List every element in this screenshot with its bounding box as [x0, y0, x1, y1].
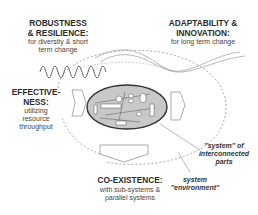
- coexistence-label: CO-EXISTENCE: with sub-systems & paralle…: [90, 176, 170, 202]
- effectiveness-label: EFFECTIVE- NESS: utilizing resource thro…: [10, 88, 62, 131]
- adaptability-sub-1: for long term change: [158, 38, 248, 46]
- output-arrow-right: [171, 92, 185, 120]
- effectiveness-sub-3: throughput: [10, 123, 62, 131]
- effectiveness-sub-1: utilizing: [10, 107, 62, 115]
- coexistence-sub-2: parallel systems: [90, 194, 170, 202]
- long-wave-1: [95, 50, 240, 71]
- system-parts-line-1: "system" of: [194, 142, 254, 150]
- effectiveness-sub-2: resource: [10, 115, 62, 123]
- system-env-line-1: system: [170, 176, 220, 184]
- long-wave-3: [80, 62, 175, 72]
- input-arrow-left: [72, 90, 86, 116]
- system-env-line-2: "environment": [170, 184, 220, 192]
- robustness-sub-2: term change: [18, 46, 98, 54]
- system-environment-label: system "environment": [170, 176, 220, 192]
- effectiveness-title-2: NESS:: [10, 98, 62, 108]
- coexistence-sub-1: with sub-systems &: [90, 186, 170, 194]
- robustness-sub-1: for diversity & short: [18, 38, 98, 46]
- system-parts-label: "system" of interconnected parts: [194, 142, 254, 166]
- robustness-label: ROBUSTNESS & RESILIENCE: for diversity &…: [18, 19, 98, 54]
- system-parts-line-2: interconnected: [194, 150, 254, 158]
- system-parts-line-3: parts: [194, 158, 254, 166]
- output-arrow-bottom: [100, 145, 148, 162]
- coexistence-title: CO-EXISTENCE:: [90, 176, 170, 186]
- short-wave: [40, 66, 106, 78]
- system-ellipse: [87, 85, 167, 129]
- adaptability-title-2: INNOVATION:: [158, 29, 248, 39]
- robustness-title-2: & RESILIENCE:: [18, 29, 98, 39]
- adaptability-label: ADAPTABILITY & INNOVATION: for long term…: [158, 19, 248, 46]
- long-wave-2: [100, 55, 245, 72]
